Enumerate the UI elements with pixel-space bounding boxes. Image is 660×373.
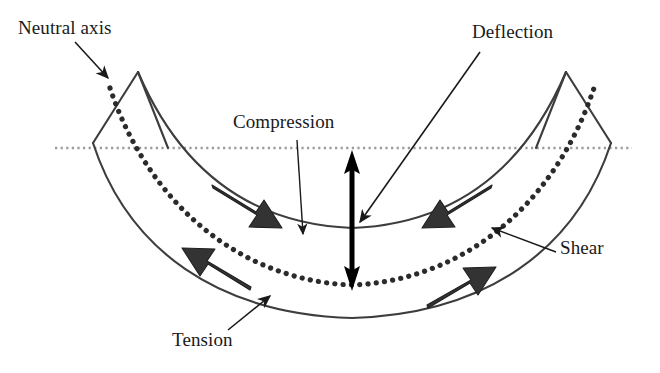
leader-deflection bbox=[360, 52, 480, 222]
beam-right-end-cap bbox=[566, 72, 611, 143]
label-neutral-axis: Neutral axis bbox=[18, 18, 112, 39]
leader-neutral-axis bbox=[75, 42, 108, 78]
leader-shear bbox=[492, 228, 556, 252]
label-tension: Tension bbox=[172, 330, 233, 351]
label-deflection: Deflection bbox=[472, 22, 553, 43]
beam-bending-diagram: Neutral axis Compression Deflection Shea… bbox=[0, 0, 660, 373]
label-shear: Shear bbox=[560, 238, 604, 259]
compression-arrow-right bbox=[422, 185, 492, 228]
beam-left-end-cap bbox=[93, 72, 138, 143]
label-compression: Compression bbox=[233, 112, 334, 133]
beam-left-end-cap-inner bbox=[138, 72, 168, 148]
beam-right-end-cap-inner bbox=[536, 72, 566, 148]
diagram-canvas bbox=[0, 0, 660, 373]
compression-arrow-left bbox=[212, 185, 282, 228]
